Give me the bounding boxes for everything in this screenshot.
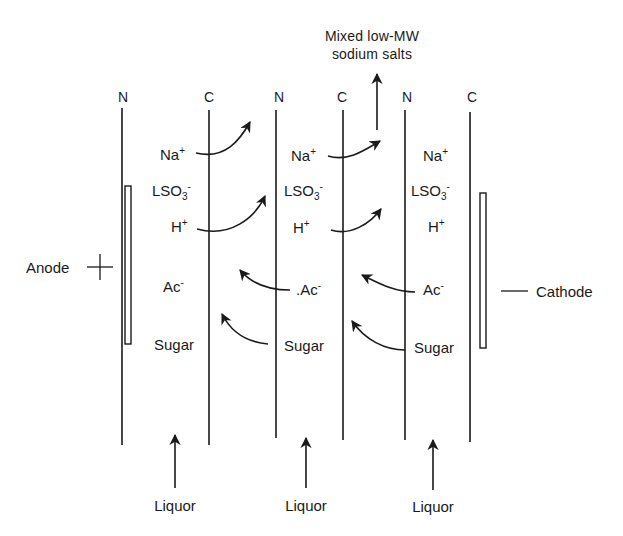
liquor-label-3: Liquor <box>412 499 454 514</box>
species-na-1: Na+ <box>160 147 185 162</box>
arrow-na-1 <box>196 122 250 154</box>
species-lso3-3: LSO3- <box>411 183 450 198</box>
membrane-label-c2: C <box>337 90 347 104</box>
arrow-ac-3 <box>362 275 415 292</box>
liquor-label-2: Liquor <box>285 498 327 513</box>
species-h-1: H+ <box>171 219 188 234</box>
product-label-line1: Mixed low-MW <box>325 27 419 45</box>
species-sugar-3: Sugar <box>414 340 454 355</box>
species-lso3-1: LSO3- <box>152 183 191 198</box>
cathode-label: Cathode <box>536 284 593 299</box>
species-h-3: H+ <box>428 219 445 234</box>
species-ac-3: Ac- <box>423 282 444 297</box>
product-label: Mixed low-MW sodium salts <box>325 27 419 63</box>
cathode-plate <box>480 193 486 348</box>
anode-label: Anode <box>26 260 69 275</box>
anode-plate <box>125 186 131 344</box>
membrane-label-n1: N <box>118 90 128 104</box>
species-ac-2: .Ac- <box>296 282 321 297</box>
membrane-label-n3: N <box>402 90 412 104</box>
arrow-h-1 <box>197 196 265 231</box>
species-h-2: H+ <box>293 220 310 235</box>
product-label-line2: sodium salts <box>325 45 419 63</box>
species-sugar-2: Sugar <box>284 338 324 353</box>
membrane-label-c1: C <box>204 90 214 104</box>
species-lso3-2: LSO3- <box>284 183 323 198</box>
species-na-2: Na+ <box>291 148 316 163</box>
membrane-label-c3: C <box>467 90 477 104</box>
arrow-ac-2 <box>240 270 290 290</box>
species-na-3: Na+ <box>423 148 448 163</box>
species-ac-1: Ac- <box>163 279 184 294</box>
arrow-sugar-2 <box>222 314 268 344</box>
species-sugar-1: Sugar <box>154 337 194 352</box>
arrow-h-2 <box>331 209 381 232</box>
membrane-label-n2: N <box>274 90 284 104</box>
arrow-sugar-3 <box>352 321 405 350</box>
liquor-label-1: Liquor <box>154 498 196 513</box>
diagram-canvas <box>0 0 623 536</box>
arrow-na-2 <box>328 141 380 158</box>
